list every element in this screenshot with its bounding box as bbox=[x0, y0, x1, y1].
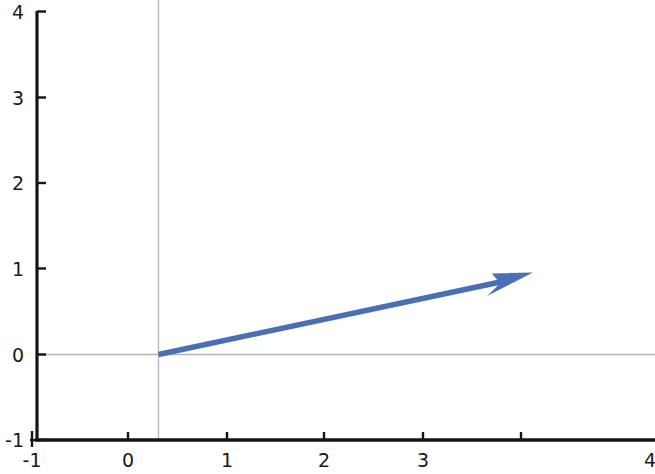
ytick-label-2: 2 bbox=[0, 174, 24, 193]
figure-canvas: 4 3 2 1 0 -1 -1 0 1 2 3 4 bbox=[0, 0, 655, 474]
ytick-label-0: 0 bbox=[0, 346, 24, 365]
vector-arrow bbox=[159, 273, 534, 355]
xtick-label-2: 2 bbox=[318, 451, 330, 470]
ytick-label-3: 3 bbox=[0, 89, 24, 108]
vector-plot bbox=[0, 0, 655, 474]
xtick-label-4: 4 bbox=[644, 451, 655, 470]
xtick-label-neg1: -1 bbox=[23, 451, 42, 470]
xtick-label-0: 0 bbox=[122, 451, 134, 470]
ytick-label-neg1: -1 bbox=[0, 431, 24, 450]
vector-arrow-shaft bbox=[159, 281, 506, 355]
xtick-label-3: 3 bbox=[417, 451, 429, 470]
ytick-label-4: 4 bbox=[0, 3, 24, 22]
ytick-label-1: 1 bbox=[0, 260, 24, 279]
xtick-label-1: 1 bbox=[221, 451, 233, 470]
